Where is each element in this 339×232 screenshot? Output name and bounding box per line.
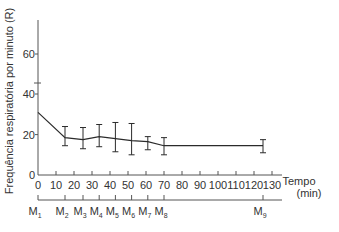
plot-area bbox=[38, 112, 266, 154]
x-axis-title-line2: (min) bbox=[296, 187, 321, 199]
x-tick-label: 60 bbox=[140, 179, 152, 191]
x-tick-label: 90 bbox=[194, 179, 206, 191]
moment-label: M3 bbox=[73, 205, 86, 219]
x-tick-label: 100 bbox=[209, 179, 227, 191]
x-tick-label: 0 bbox=[35, 179, 41, 191]
moment-label: M8 bbox=[154, 205, 167, 219]
moment-label: M7 bbox=[138, 205, 151, 219]
data-line bbox=[38, 112, 263, 145]
x-tick-label: 70 bbox=[158, 179, 170, 191]
moment-label: M2 bbox=[55, 205, 68, 219]
moments-axis: M1M2M3M4M5M6M7M8M9 bbox=[28, 195, 282, 219]
y-tick-label: 40 bbox=[23, 88, 35, 100]
moment-label: M6 bbox=[122, 205, 135, 219]
error-bar bbox=[80, 128, 86, 149]
moment-label: M9 bbox=[253, 205, 266, 219]
x-tick-label: 120 bbox=[245, 179, 263, 191]
respiratory-rate-chart: 0204060 0102030405060708090100110120130 … bbox=[0, 0, 339, 232]
x-tick-label: 50 bbox=[122, 179, 134, 191]
moment-label: M5 bbox=[106, 205, 119, 219]
moment-label: M1 bbox=[28, 205, 41, 219]
x-tick-label: 20 bbox=[68, 179, 80, 191]
x-tick-label: 10 bbox=[50, 179, 62, 191]
y-tick-label: 60 bbox=[23, 48, 35, 60]
x-axis: 0102030405060708090100110120130 bbox=[35, 171, 282, 191]
x-axis-title-line1: Tempo bbox=[282, 175, 315, 187]
error-bar bbox=[129, 123, 135, 154]
error-bar bbox=[112, 122, 118, 151]
x-tick-label: 80 bbox=[176, 179, 188, 191]
y-axis: 0204060 bbox=[23, 20, 41, 181]
x-tick-label: 110 bbox=[227, 179, 245, 191]
x-tick-label: 40 bbox=[104, 179, 116, 191]
error-bar bbox=[96, 125, 102, 147]
x-tick-label: 130 bbox=[263, 179, 281, 191]
x-tick-label: 30 bbox=[86, 179, 98, 191]
y-tick-label: 20 bbox=[23, 129, 35, 141]
y-axis-title: Frequência respiratória por minuto (R) bbox=[3, 8, 15, 194]
error-bar bbox=[145, 137, 151, 150]
moment-label: M4 bbox=[90, 205, 103, 219]
